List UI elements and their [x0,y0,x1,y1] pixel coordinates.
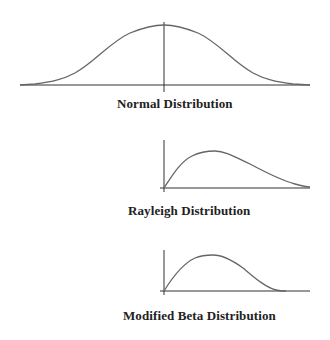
rayleigh-distribution-title: Rayleigh Distribution [128,203,250,219]
rayleigh-curve [164,151,310,188]
beta-distribution-title: Modified Beta Distribution [123,308,276,324]
rayleigh-distribution-plot [160,140,310,192]
normal-curve [20,25,310,85]
distribution-figure [0,0,330,340]
beta-distribution-plot [160,250,310,295]
normal-distribution-title: Normal Distribution [117,96,233,112]
beta-curve [164,255,286,291]
normal-distribution-plot [20,22,310,92]
